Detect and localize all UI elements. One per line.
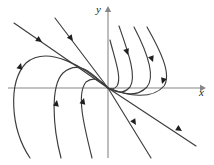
trajectory-curve: [108, 88, 196, 146]
axes-group: [8, 6, 206, 158]
trajectory-direction-arrow: [79, 97, 86, 105]
y-axis-arrowhead: [105, 6, 111, 12]
trajectory-direction-arrow: [175, 125, 183, 133]
trajectory-curve: [108, 40, 119, 89]
x-axis-label: x: [198, 86, 204, 98]
trajectory-curve: [14, 56, 108, 158]
trajectory-curve: [108, 27, 167, 95]
trajectory-direction-arrow: [123, 48, 131, 56]
phase-portrait-canvas: x y: [0, 0, 214, 165]
y-axis-label: y: [95, 3, 101, 15]
trajectory-direction-arrow: [148, 55, 156, 63]
trajectory-curve: [81, 79, 108, 158]
trajectory-curve: [55, 18, 108, 88]
trajectory-curve: [108, 88, 151, 158]
trajectory-curve: [108, 27, 150, 94]
trajectory-curve: [108, 26, 133, 92]
trajectory-curve: [14, 23, 108, 88]
phase-portrait-figure: x y: [0, 0, 214, 165]
